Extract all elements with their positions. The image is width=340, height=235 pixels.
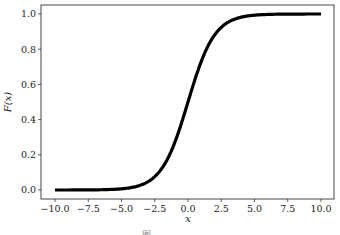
x-tick-label: −10.0: [40, 203, 69, 214]
x-axis-ticks: −10.0−7.5−5.0−2.50.02.55.07.510.0: [40, 199, 331, 214]
y-tick-label: 1.0: [21, 8, 36, 19]
x-tick-label: 7.5: [280, 203, 295, 214]
y-axis-ticks: 0.00.20.40.60.81.0: [21, 8, 41, 195]
x-tick-label: −5.0: [110, 203, 133, 214]
x-tick-label: 10.0: [310, 203, 331, 214]
y-tick-label: 0.8: [21, 44, 36, 55]
x-tick-label: −7.5: [77, 203, 100, 214]
y-tick-label: 0.2: [21, 149, 36, 160]
y-tick-label: 0.0: [21, 184, 36, 195]
figure-caption: 图 … … … …: [0, 228, 340, 235]
y-tick-label: 0.6: [21, 79, 36, 90]
sigmoid-chart: −10.0−7.5−5.0−2.50.02.55.07.510.0 0.00.2…: [0, 0, 340, 235]
x-tick-label: 2.5: [214, 203, 229, 214]
x-tick-label: 5.0: [247, 203, 262, 214]
y-axis-label: F(x): [2, 92, 13, 113]
y-tick-label: 0.4: [21, 114, 36, 125]
x-tick-label: −2.5: [143, 203, 166, 214]
x-axis-label: x: [185, 213, 191, 224]
